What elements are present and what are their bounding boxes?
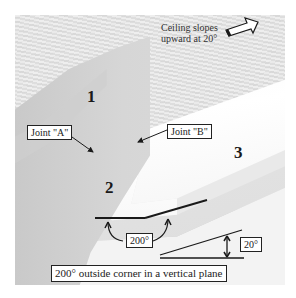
region-number-2: 2 bbox=[105, 178, 114, 198]
diagram-caption: 200° outside corner in a vertical plane bbox=[51, 265, 227, 282]
joint-b-label: Joint "B" bbox=[167, 124, 212, 139]
joint-b-leader bbox=[138, 130, 167, 142]
region-number-1: 1 bbox=[87, 87, 96, 107]
ceiling-note-line2: upward at 20° bbox=[161, 33, 217, 44]
joint-a-leader bbox=[72, 137, 93, 152]
angle-200-label: 200° bbox=[126, 233, 153, 248]
ceiling-slope-arrow-icon bbox=[226, 18, 258, 36]
annotation-lines bbox=[0, 0, 296, 298]
region-number-3: 3 bbox=[234, 143, 243, 163]
joint-a-label: Joint "A" bbox=[27, 125, 72, 140]
ceiling-note-line1: Ceiling slopes bbox=[161, 22, 218, 33]
angle-20-label: 20° bbox=[240, 237, 262, 252]
